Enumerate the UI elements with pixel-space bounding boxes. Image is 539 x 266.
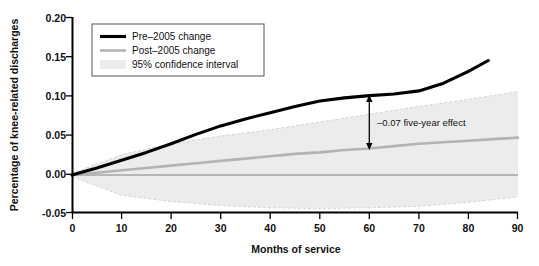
legend-label-post-2005: Post–2005 change [132,45,216,56]
chart-legend: Pre–2005 change Post–2005 change 95% con… [92,24,264,76]
five-year-effect-label: –0.07 five-year effect [377,117,466,128]
y-tick-label-neg005: -0.05 [42,207,66,219]
y-axis-title: Percentage of knee-related discharges [8,19,20,212]
x-tick-label-40: 40 [264,222,276,234]
x-axis-title: Months of service [251,243,340,255]
legend-label-pre-2005: Pre–2005 change [132,31,211,42]
x-tick-label-20: 20 [165,222,177,234]
x-tick-label-80: 80 [463,222,475,234]
x-tick-label-10: 10 [116,222,128,234]
chart-figure: Percentage of knee-related discharges Mo… [0,0,539,266]
x-tick-label-0: 0 [70,222,76,234]
y-tick-label-000: 0.00 [46,168,67,180]
y-tick-label-010: 0.10 [46,90,67,102]
x-tick-label-60: 60 [363,222,375,234]
y-tick-label-020: 0.20 [46,12,67,24]
x-tick-label-90: 90 [512,222,524,234]
legend-marker-confidence-interval [100,60,126,69]
knee-discharge-line-chart: Percentage of knee-related discharges Mo… [0,0,539,266]
legend-label-confidence-interval: 95% confidence interval [132,59,238,70]
x-tick-label-50: 50 [314,222,326,234]
x-tick-label-70: 70 [413,222,425,234]
y-tick-label-015: 0.15 [46,51,67,63]
x-tick-label-30: 30 [215,222,227,234]
y-tick-label-005: 0.05 [46,129,67,141]
